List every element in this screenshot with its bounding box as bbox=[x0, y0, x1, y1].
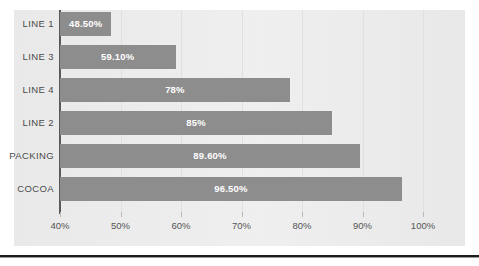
category-axis-label: LINE 2 bbox=[23, 111, 54, 135]
axis-tick-mark bbox=[423, 212, 424, 217]
value-axis-tick-labels: 40%50%60%70%80%90%100% bbox=[60, 220, 423, 238]
value-axis-tick-label: 70% bbox=[232, 220, 251, 231]
value-axis-tick-label: 100% bbox=[411, 220, 435, 231]
value-axis-tick-label: 90% bbox=[353, 220, 372, 231]
bottom-divider-shadow bbox=[0, 257, 479, 258]
category-axis-label: COCOA bbox=[17, 177, 54, 201]
bar-value-label: 89.60% bbox=[193, 144, 226, 168]
axis-tick-mark bbox=[242, 212, 243, 217]
category-axis: LINE 1LINE 3LINE 4LINE 2PACKINGCOCOA bbox=[0, 12, 58, 212]
bar-row[interactable]: 59.10% bbox=[60, 45, 423, 69]
axis-tick-mark bbox=[181, 212, 182, 217]
bar-row[interactable]: 78% bbox=[60, 78, 423, 102]
axis-tick-mark bbox=[302, 212, 303, 217]
bar-value-label: 96.50% bbox=[214, 177, 247, 201]
category-axis-label: LINE 4 bbox=[23, 78, 54, 102]
bar-value-label: 85% bbox=[186, 111, 206, 135]
category-axis-label: LINE 1 bbox=[23, 12, 54, 36]
bar-value-label: 48.50% bbox=[69, 12, 102, 36]
bar-row[interactable]: 48.50% bbox=[60, 12, 423, 36]
chart-figure: LINE 1LINE 3LINE 4LINE 2PACKINGCOCOA 48.… bbox=[0, 0, 479, 266]
category-axis-label: PACKING bbox=[9, 144, 54, 168]
gridline bbox=[423, 10, 424, 214]
value-axis-tick-label: 40% bbox=[50, 220, 69, 231]
bar-row[interactable]: 89.60% bbox=[60, 144, 423, 168]
axis-tick-mark bbox=[60, 212, 61, 217]
bar-row[interactable]: 96.50% bbox=[60, 177, 423, 201]
category-axis-label: LINE 3 bbox=[23, 45, 54, 69]
bar-value-label: 78% bbox=[165, 78, 185, 102]
value-axis-tick-label: 50% bbox=[111, 220, 130, 231]
bar-value-label: 59.10% bbox=[101, 45, 134, 69]
value-axis-tick-label: 80% bbox=[292, 220, 311, 231]
plot-area: 48.50%59.10%78%85%89.60%96.50% bbox=[60, 12, 423, 212]
value-axis-tick-label: 60% bbox=[171, 220, 190, 231]
axis-tick-mark bbox=[121, 212, 122, 217]
bar-row[interactable]: 85% bbox=[60, 111, 423, 135]
axis-tick-mark bbox=[363, 212, 364, 217]
